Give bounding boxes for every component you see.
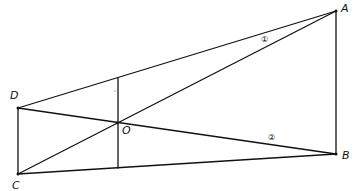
label-O: O	[122, 124, 131, 137]
angle-mark-2: ②	[268, 133, 275, 142]
segment-DA	[18, 11, 336, 108]
segment-DB	[18, 108, 336, 154]
angle-mark-1: ①	[261, 35, 268, 44]
segment-CA	[18, 11, 336, 174]
stray-dot	[114, 90, 115, 91]
segment-CB	[18, 154, 336, 174]
label-B: B	[342, 149, 350, 162]
label-A: A	[340, 2, 349, 15]
label-D: D	[10, 89, 18, 102]
point-C	[17, 173, 20, 176]
geometry-diagram: A B C D O ① ②	[0, 0, 353, 191]
point-A	[335, 10, 338, 13]
point-O	[116, 122, 119, 125]
label-C: C	[12, 179, 20, 191]
point-B	[335, 153, 338, 156]
point-D	[17, 107, 20, 110]
